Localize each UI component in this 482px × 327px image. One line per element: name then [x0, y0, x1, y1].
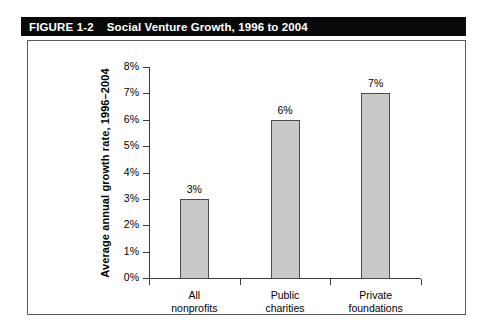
bar	[180, 199, 209, 279]
bar-value-label: 3%	[174, 184, 214, 195]
y-axis-line	[149, 67, 150, 278]
x-axis-category-label: Privatefoundations	[326, 289, 426, 315]
y-axis-tick-label-wrap: 6%	[143, 120, 149, 121]
x-axis-tick	[330, 279, 331, 285]
y-axis-tick-label-wrap: 7%	[143, 93, 149, 94]
y-axis-tick-label-wrap: 5%	[143, 146, 149, 147]
x-axis-tick	[421, 279, 422, 285]
y-axis-tick-label: 7%	[124, 87, 139, 98]
y-axis-tick-label-wrap: 8%	[143, 67, 149, 68]
x-axis-tick	[240, 279, 241, 285]
y-axis-title-text: Average annual growth rate, 1996–2004	[99, 68, 111, 277]
category-label-line-1: Private	[326, 289, 426, 302]
y-axis-title: Average annual growth rate, 1996–2004	[98, 67, 112, 278]
figure-title-bar: FIGURE 1-2 Social Venture Growth, 1996 t…	[21, 17, 466, 36]
x-axis-category-label: Publiccharities	[235, 289, 335, 315]
chart-frame: Average annual growth rate, 1996–2004 0%…	[27, 40, 466, 315]
y-axis-tick-label-wrap: 3%	[143, 199, 149, 200]
y-axis-tick-label-wrap: 1%	[143, 252, 149, 253]
x-axis-category-label: Allnonprofits	[144, 289, 244, 315]
bar-value-label: 7%	[356, 78, 396, 89]
y-axis-tick-label-wrap: 2%	[143, 225, 149, 226]
y-axis-tick-label: 4%	[124, 167, 139, 178]
bar	[361, 93, 390, 279]
y-axis-tick-label: 2%	[124, 219, 139, 230]
y-axis-tick-label: 5%	[124, 140, 139, 151]
x-axis-tick	[149, 279, 150, 285]
category-label-line-1: All	[144, 289, 244, 302]
plot-area: Average annual growth rate, 1996–2004 0%…	[28, 41, 465, 314]
y-axis-tick-label: 1%	[124, 246, 139, 257]
category-label-line-2: foundations	[326, 302, 426, 315]
figure-number: FIGURE 1-2	[29, 21, 94, 33]
bar	[271, 120, 300, 279]
category-label-line-2: charities	[235, 302, 335, 315]
bar-value-label: 6%	[265, 105, 305, 116]
y-axis-tick-label: 8%	[124, 61, 139, 72]
category-label-line-2: nonprofits	[144, 302, 244, 315]
y-axis-tick-label-wrap: 4%	[143, 173, 149, 174]
figure-caption: Social Venture Growth, 1996 to 2004	[107, 21, 308, 33]
y-axis-tick-label: 3%	[124, 193, 139, 204]
y-axis-tick-label: 6%	[124, 114, 139, 125]
category-label-line-1: Public	[235, 289, 335, 302]
y-axis-tick-label: 0%	[124, 272, 139, 283]
